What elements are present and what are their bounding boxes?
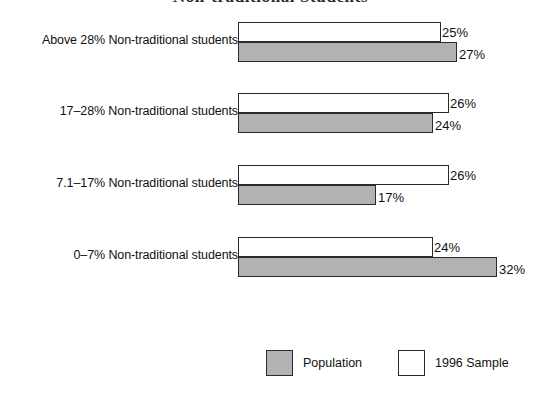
legend-label: 1996 Sample (435, 356, 509, 370)
bar-chart: Non-traditional Students Above 28% Non-t… (0, 0, 541, 396)
legend-item-sample[interactable]: 1996 Sample (398, 350, 509, 376)
legend-swatch-icon (398, 350, 425, 376)
chart-legend: Population 1996 Sample (0, 350, 541, 384)
bar-value-population: 32% (499, 263, 525, 276)
bar-value-sample: 25% (442, 26, 468, 39)
legend-swatch-icon (266, 350, 293, 376)
bar-value-population: 24% (435, 119, 461, 132)
chart-title-clipped: Non-traditional Students (0, 0, 541, 7)
bar-value-sample: 26% (450, 97, 476, 110)
bar-sample[interactable]: 25% (238, 22, 441, 42)
category-label: 17–28% Non-traditional students (60, 104, 238, 118)
bar-value-sample: 26% (450, 169, 476, 182)
category-label: 0–7% Non-traditional students (73, 248, 238, 262)
bar-group: 17–28% Non-traditional students 26% 24% (0, 93, 541, 135)
bar-population[interactable]: 24% (238, 113, 433, 133)
legend-item-population[interactable]: Population (266, 350, 362, 376)
legend-label: Population (303, 356, 362, 370)
bar-sample[interactable]: 26% (238, 93, 449, 113)
bar-group: 0–7% Non-traditional students 24% 32% (0, 237, 541, 279)
bar-group: Above 28% Non-traditional students 25% 2… (0, 22, 541, 64)
chart-title: Non-traditional Students (0, 0, 541, 7)
category-label: 7.1–17% Non-traditional students (56, 176, 238, 190)
bar-population[interactable]: 32% (238, 257, 497, 277)
bar-sample[interactable]: 24% (238, 237, 433, 257)
bar-population[interactable]: 27% (238, 42, 457, 62)
bar-value-population: 17% (378, 191, 404, 204)
category-label: Above 28% Non-traditional students (42, 33, 238, 47)
bar-population[interactable]: 17% (238, 185, 376, 205)
bar-group: 7.1–17% Non-traditional students 26% 17% (0, 165, 541, 207)
bar-value-population: 27% (459, 48, 485, 61)
bar-value-sample: 24% (434, 241, 460, 254)
bar-sample[interactable]: 26% (238, 165, 449, 185)
